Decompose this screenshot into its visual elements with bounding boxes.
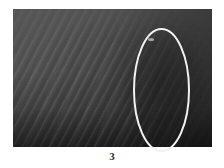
figure-caption: 3 <box>0 149 224 163</box>
photo-vignette <box>13 9 212 147</box>
photograph <box>13 9 212 147</box>
figure-container: 3 <box>0 0 224 168</box>
bright-speck-mark <box>148 38 154 41</box>
